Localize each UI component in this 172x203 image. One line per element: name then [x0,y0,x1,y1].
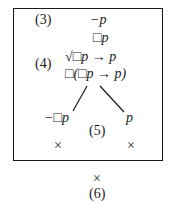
outer-closure-cross: × [93,172,101,186]
step-6-label: (6) [89,187,105,201]
left-closure-cross: × [54,139,62,153]
node-p: p [126,111,133,125]
branch-lines [0,0,172,203]
step-5-label: (5) [89,124,105,138]
node-not-box-p: −□p [44,111,69,125]
right-closure-cross: × [127,139,135,153]
